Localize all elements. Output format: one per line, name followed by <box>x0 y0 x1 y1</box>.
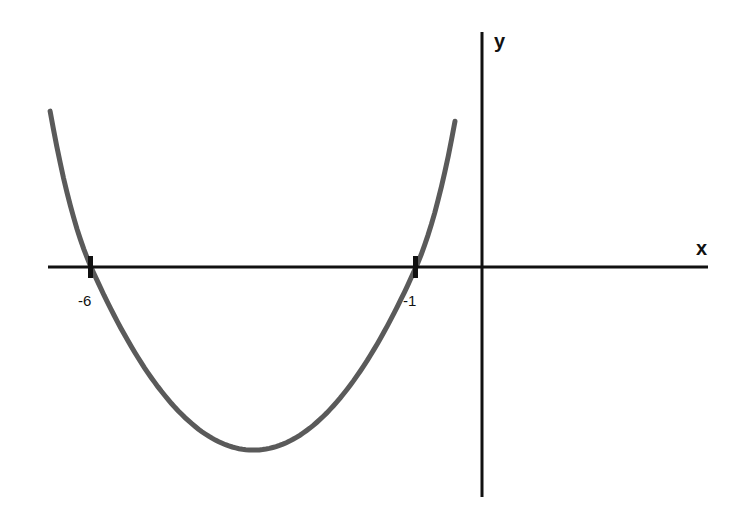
x-axis-label: x <box>696 237 707 259</box>
parabola-curve <box>50 111 455 450</box>
y-axis-label: y <box>494 30 506 52</box>
parabola-chart: -6 -1 x y <box>0 0 744 520</box>
tick-mark-neg6 <box>88 256 93 278</box>
tick-label-neg6: -6 <box>78 292 91 309</box>
tick-mark-neg1 <box>413 256 418 278</box>
tick-label-neg1: -1 <box>403 292 416 309</box>
